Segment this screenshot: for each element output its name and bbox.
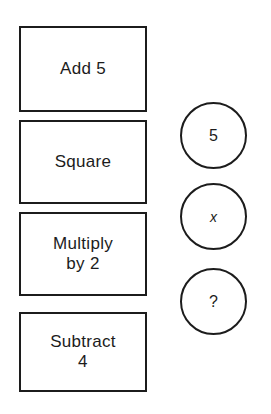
value-circle-variable-x[interactable]: x xyxy=(180,183,247,250)
value-circle-unknown[interactable]: ? xyxy=(180,268,247,335)
operation-box-add[interactable]: Add 5 xyxy=(19,26,147,112)
operation-box-square[interactable]: Square xyxy=(19,120,147,204)
operation-box-multiply[interactable]: Multiply by 2 xyxy=(19,212,147,296)
value-circle-five[interactable]: 5 xyxy=(180,102,247,169)
operation-box-subtract[interactable]: Subtract 4 xyxy=(19,312,147,392)
diagram-canvas: Add 5 Square Multiply by 2 Subtract 4 5 … xyxy=(0,0,271,414)
